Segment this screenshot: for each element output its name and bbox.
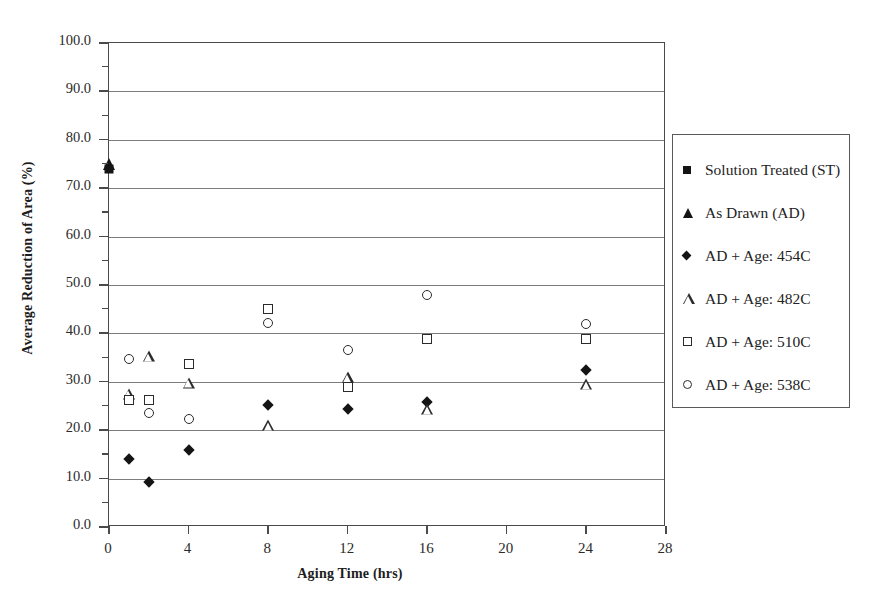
y-tick-label-10: 10.0 [13, 468, 91, 485]
data-point-open-circle [343, 345, 353, 355]
x-tick-16 [426, 526, 428, 534]
gridline-y-20 [109, 430, 664, 431]
x-tick-4 [188, 526, 190, 534]
plot-area [108, 42, 665, 526]
legend-item-0[interactable]: Solution Treated (ST) [683, 148, 849, 191]
legend-item-5[interactable]: AD + Age: 538C [683, 363, 849, 406]
y-tick-80 [99, 139, 108, 141]
y-minor-tick-85 [102, 115, 108, 116]
data-point-open-circle [263, 318, 273, 328]
legend-label: Solution Treated (ST) [705, 161, 840, 179]
y-minor-tick-25 [102, 405, 108, 406]
x-tick-label-8: 8 [242, 540, 292, 557]
legend-swatch-open-circle [683, 378, 699, 392]
data-point-open-square [124, 395, 134, 405]
legend-swatch-filled-diamond [683, 249, 699, 263]
y-minor-tick-45 [102, 308, 108, 309]
data-point-open-triangle [262, 420, 274, 431]
y-minor-tick-65 [102, 211, 108, 212]
legend-item-1[interactable]: As Drawn (AD) [683, 191, 849, 234]
y-minor-tick-35 [102, 357, 108, 358]
open-square-marker [683, 337, 692, 346]
x-tick-label-4: 4 [163, 540, 213, 557]
legend-label: AD + Age: 510C [705, 333, 811, 351]
legend-label: AD + Age: 482C [705, 290, 811, 308]
legend-box: Solution Treated (ST)As Drawn (AD)AD + A… [672, 134, 850, 408]
y-tick-50 [99, 284, 108, 286]
data-point-open-triangle [183, 377, 195, 388]
y-tick-40 [99, 332, 108, 334]
x-tick-label-16: 16 [401, 540, 451, 557]
data-point-filled-diamond [342, 404, 353, 415]
y-tick-0 [99, 526, 108, 528]
data-point-open-square [263, 304, 273, 314]
x-tick-label-20: 20 [481, 540, 531, 557]
legend-item-3[interactable]: AD + Age: 482C [683, 277, 849, 320]
y-tick-label-100: 100.0 [13, 32, 91, 49]
y-tick-60 [99, 236, 108, 238]
gridline-y-80 [109, 140, 664, 141]
data-point-filled-diamond [581, 364, 592, 375]
chart-figure: 0.010.020.030.040.050.060.070.080.090.01… [0, 0, 875, 608]
x-tick-label-12: 12 [322, 540, 372, 557]
open-triangle-marker [683, 293, 695, 304]
data-point-filled-diamond [262, 399, 273, 410]
y-minor-tick-95 [102, 66, 108, 67]
x-axis-title: Aging Time (hrs) [0, 566, 700, 582]
gridline-y-60 [109, 237, 664, 238]
data-point-open-square [144, 395, 154, 405]
x-tick-label-28: 28 [640, 540, 690, 557]
legend-swatch-open-triangle [683, 292, 699, 306]
data-point-open-circle [422, 290, 432, 300]
x-tick-8 [267, 526, 269, 534]
y-tick-label-20: 20.0 [13, 419, 91, 436]
legend-label: AD + Age: 538C [705, 376, 811, 394]
data-point-open-square [184, 359, 194, 369]
data-point-open-square [343, 382, 353, 392]
y-tick-label-0: 0.0 [13, 516, 91, 533]
gridline-y-50 [109, 285, 664, 286]
data-point-open-circle [144, 408, 154, 418]
y-tick-30 [99, 381, 108, 383]
y-minor-tick-15 [102, 453, 108, 454]
legend-item-4[interactable]: AD + Age: 510C [683, 320, 849, 363]
data-point-filled-diamond [123, 454, 134, 465]
y-tick-70 [99, 187, 108, 189]
legend-label: AD + Age: 454C [705, 247, 811, 265]
data-point-open-square [581, 334, 591, 344]
legend-swatch-open-square [683, 335, 699, 349]
x-tick-0 [108, 526, 110, 534]
data-point-open-triangle [143, 351, 155, 362]
x-tick-24 [585, 526, 587, 534]
data-point-open-triangle [580, 379, 592, 390]
x-tick-label-24: 24 [560, 540, 610, 557]
data-point-open-circle [184, 414, 194, 424]
x-tick-20 [506, 526, 508, 534]
data-point-open-triangle [421, 404, 433, 415]
gridline-y-70 [109, 188, 664, 189]
y-axis-title: Average Reduction of Area (%) [20, 118, 36, 398]
y-tick-100 [99, 42, 108, 44]
y-minor-tick-5 [102, 502, 108, 503]
x-tick-12 [347, 526, 349, 534]
y-tick-90 [99, 90, 108, 92]
filled-square-marker [683, 166, 691, 174]
legend-swatch-filled-square [683, 163, 699, 177]
y-tick-label-90: 90.0 [13, 80, 91, 97]
legend-label: As Drawn (AD) [705, 204, 805, 222]
data-point-open-circle [124, 354, 134, 364]
data-point-open-square [422, 334, 432, 344]
data-point-open-circle [581, 319, 591, 329]
y-minor-tick-55 [102, 260, 108, 261]
x-tick-28 [665, 526, 667, 534]
legend-item-2[interactable]: AD + Age: 454C [683, 234, 849, 277]
data-point-filled-diamond [183, 444, 194, 455]
open-circle-marker [683, 380, 692, 389]
legend-swatch-filled-triangle [683, 206, 699, 220]
gridline-y-90 [109, 91, 664, 92]
filled-diamond-marker [682, 251, 692, 261]
filled-triangle-marker [683, 208, 693, 218]
y-tick-10 [99, 478, 108, 480]
x-tick-label-0: 0 [83, 540, 133, 557]
y-minor-tick-75 [102, 163, 108, 164]
